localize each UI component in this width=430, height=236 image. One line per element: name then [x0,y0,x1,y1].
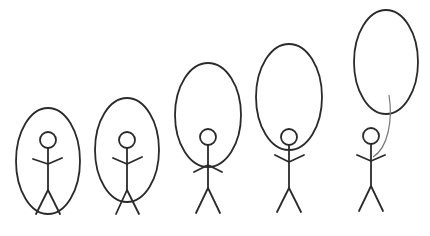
figure-1 [16,108,80,214]
head [363,128,379,144]
head [119,132,135,148]
figure-5 [354,10,418,211]
legs [36,190,60,214]
figure-4 [256,44,322,212]
balloon-string [373,95,390,157]
head [200,129,216,145]
head [281,129,297,145]
head [40,132,56,148]
bubble-sequence-diagram [0,0,430,236]
legs [359,186,383,211]
legs [196,188,220,213]
figure-2 [95,98,159,214]
bubble-oval [256,44,322,150]
legs [277,188,301,212]
stick-figure [357,128,385,211]
balloon-oval [354,10,418,114]
figure-3 [175,63,241,213]
stick-figure [33,132,62,214]
stick-figure [194,129,222,213]
stick-figure [275,129,304,212]
